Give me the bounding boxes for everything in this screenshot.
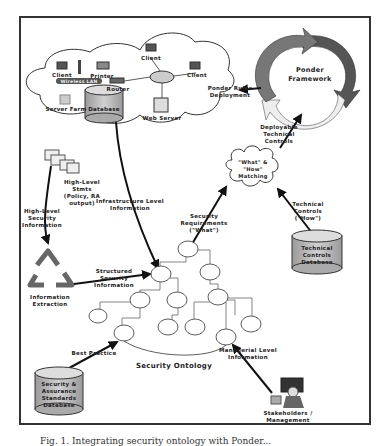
client-laptop-icon [146, 44, 156, 51]
stmts-label: High-Level [64, 179, 100, 186]
server-farm-icon [60, 95, 70, 104]
stmts-label: Stmts [72, 186, 92, 192]
edge-label: Requirements [180, 220, 227, 227]
network-cloud: Wireless LAN Client Printer Router Clien… [26, 33, 234, 123]
stakeholders-label: Stakeholders / [264, 410, 314, 416]
client-laptop-icon [190, 62, 200, 69]
db-label: Database [43, 402, 75, 408]
web-server-label: Web Server [143, 115, 182, 121]
db-label: Standards [42, 395, 77, 401]
edge-label: Ponder Rules [208, 85, 253, 91]
recycle-icon [30, 251, 72, 285]
svg-text:Wireless LAN: Wireless LAN [60, 79, 97, 84]
edge-label: Structured [96, 268, 132, 274]
edge-label: Controls [294, 208, 323, 214]
server-farm-label: Server Farm [45, 106, 86, 112]
matching-label: "What" & [238, 159, 268, 165]
stakeholders-label: Management [266, 417, 310, 424]
client-label: Client [187, 72, 207, 78]
ponder-label: Framework [288, 75, 332, 83]
infrastructure-arrow [116, 122, 158, 268]
standards-database-icon: Security & Assurance Standards Database [35, 367, 83, 415]
antenna-icon [78, 60, 81, 74]
edge-label: Information [94, 282, 134, 288]
db-label: Technical [301, 245, 332, 251]
extraction-label: Extraction [33, 301, 68, 307]
db-label: Database [301, 259, 333, 265]
client-label: Client [52, 72, 72, 78]
hub-icon [150, 71, 174, 83]
figure-caption: Fig. 1. Integrating security ontology wi… [40, 436, 271, 446]
db-label: Security & [41, 381, 76, 388]
edge-label: Technical [263, 131, 294, 137]
db-label: Assurance [42, 388, 77, 394]
edge-label: Information [22, 222, 62, 228]
stakeholder-icon [271, 378, 304, 408]
ponder-framework-cycle: Ponder Framework [255, 28, 360, 129]
edge-label: Security [28, 215, 56, 222]
edge-label: ("How") [295, 215, 322, 221]
stmts-label: output) [69, 200, 95, 207]
edge-label: Infrastructure Level [96, 198, 164, 204]
matching-node: "What" & "How" Matching [226, 146, 278, 186]
extraction-label: Information [30, 294, 70, 300]
edge-label: Best Practice [72, 350, 117, 356]
high-level-security-arrow [45, 166, 51, 243]
router-label: Router [107, 86, 130, 92]
edge-label: Deployment [210, 92, 251, 99]
technical-controls-database-icon: Technical Controls Database [292, 230, 342, 274]
edge-label: ("What") [189, 227, 219, 233]
edge-label: Information [228, 354, 268, 360]
edge-label: Information [110, 205, 150, 211]
printer-label: Printer [90, 73, 114, 79]
edge-label: High-Level [24, 208, 60, 215]
database-label: Database [88, 106, 120, 112]
security-ontology-tree [89, 241, 261, 355]
stmts-label: (Policy, RA [64, 193, 101, 200]
matching-label: "How" [243, 166, 263, 172]
edge-label: Technical [292, 201, 323, 207]
ponder-label: Ponder [296, 66, 324, 74]
edge-label: Security [190, 213, 218, 220]
security-ontology-label: Security Ontology [136, 362, 212, 370]
edge-label: Security [100, 275, 128, 282]
edge-label: Managerial Level [219, 347, 277, 354]
matching-label: Matching [238, 173, 268, 180]
db-label: Controls [303, 252, 332, 258]
client-laptop-icon [57, 62, 67, 69]
web-server-icon [154, 98, 168, 112]
edge-label: Deployable [260, 124, 298, 131]
edge-label: Controls [265, 138, 294, 144]
printer-icon [97, 62, 109, 69]
client-label: Client [141, 55, 161, 61]
